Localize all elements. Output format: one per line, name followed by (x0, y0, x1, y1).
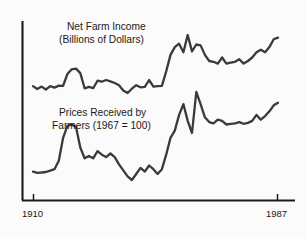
x-axis-label-1910: 1910 (22, 208, 43, 219)
farm-economics-line-chart: Net Farm Income (Billions of Dollars) Pr… (0, 0, 306, 237)
series-label-prices-received-line2: Farmers (1967 = 100) (52, 120, 151, 131)
x-axis-label-1987: 1987 (266, 208, 287, 219)
series-label-net-farm-income-line2: (Billions of Dollars) (59, 34, 144, 45)
series-label-prices-received-line1: Prices Received by (59, 107, 147, 118)
series-line-prices-received (33, 92, 278, 180)
series-label-net-farm-income-line1: Net Farm Income (67, 21, 146, 32)
chart-figure: Net Farm Income (Billions of Dollars) Pr… (0, 0, 306, 237)
